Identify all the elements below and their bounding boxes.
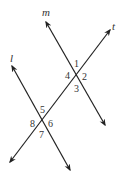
angle-label-1: 1	[74, 58, 79, 69]
angle-label-3: 3	[74, 83, 79, 94]
angle-label-8: 8	[30, 118, 35, 129]
angle-label-4: 4	[65, 70, 70, 81]
angle-label-2: 2	[82, 71, 87, 82]
line-label-t: t	[112, 20, 116, 32]
angle-label-7: 7	[39, 129, 44, 140]
angle-label-5: 5	[40, 104, 45, 115]
line-label-m: m	[42, 6, 50, 18]
line-t	[10, 30, 110, 162]
parallel-lines-diagram: mtl12345678	[0, 0, 133, 176]
line-label-l: l	[10, 52, 13, 64]
line-l	[12, 66, 70, 170]
angle-label-6: 6	[48, 118, 53, 129]
line-m	[46, 22, 105, 125]
